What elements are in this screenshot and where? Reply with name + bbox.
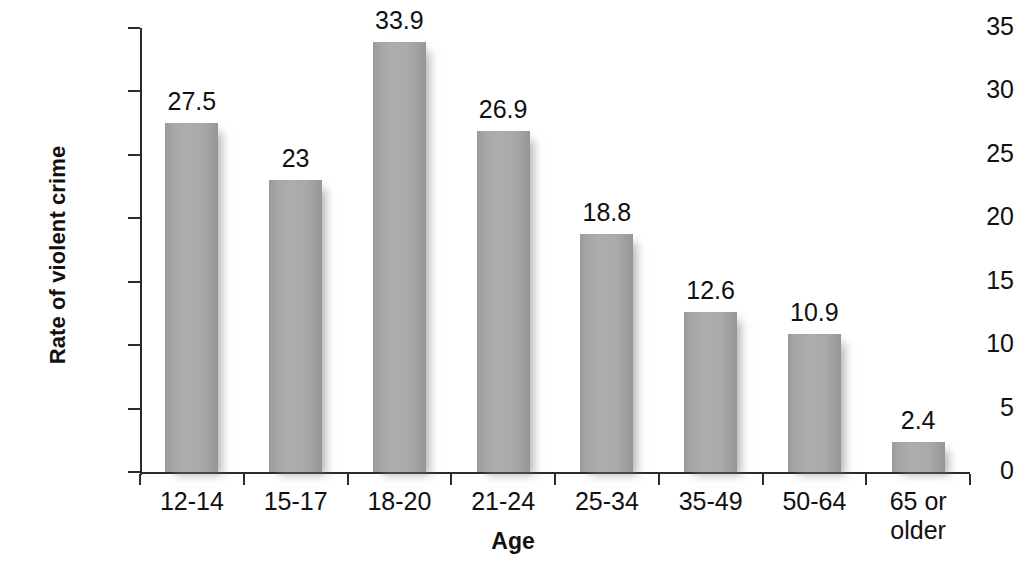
x-axis-category-label: 25-34 [555, 487, 659, 516]
bar [269, 180, 322, 472]
bar-value-label: 23 [244, 144, 348, 173]
x-axis-tick [450, 474, 452, 485]
bar-value-label: 33.9 [348, 6, 452, 35]
bar [165, 123, 218, 472]
y-axis-tick-label: 35 [908, 12, 1026, 41]
y-axis-tick [128, 344, 140, 346]
bar [580, 234, 633, 472]
bar [373, 42, 426, 472]
x-axis-tick [243, 474, 245, 485]
x-axis-tick [139, 474, 141, 485]
x-axis-tick [762, 474, 764, 485]
bar-value-label: 26.9 [451, 95, 555, 124]
y-axis-tick-label: 30 [908, 75, 1026, 104]
y-axis-tick [128, 281, 140, 283]
y-axis-tick-label: 20 [908, 202, 1026, 231]
y-axis-tick-label: 10 [908, 329, 1026, 358]
bar-value-label: 18.8 [555, 198, 659, 227]
x-axis-category-label: 50-64 [763, 487, 867, 516]
bar-value-label: 2.4 [866, 406, 970, 435]
bar-value-label: 27.5 [140, 87, 244, 116]
bar-value-label: 10.9 [763, 298, 867, 327]
y-axis-title: Rate of violent crime [38, 20, 78, 490]
x-axis-tick [969, 474, 971, 485]
y-axis-tick [128, 217, 140, 219]
x-axis-tick [347, 474, 349, 485]
x-axis-category-label: 15-17 [244, 487, 348, 516]
bar [477, 131, 530, 472]
x-axis-category-label: 35-49 [659, 487, 763, 516]
x-axis-tick [554, 474, 556, 485]
y-axis-tick-label: 25 [908, 139, 1026, 168]
y-axis-tick [128, 471, 140, 473]
x-axis-tick [865, 474, 867, 485]
bar-chart: Rate of violent crime 05101520253035 27.… [0, 0, 1026, 584]
bar [788, 334, 841, 472]
x-axis-tick [658, 474, 660, 485]
y-axis-tick-label: 15 [908, 266, 1026, 295]
y-axis-tick [128, 27, 140, 29]
bar [684, 312, 737, 472]
x-axis-category-label: 12-14 [140, 487, 244, 516]
y-axis-tick [128, 154, 140, 156]
y-axis-tick [128, 408, 140, 410]
bar [892, 442, 945, 472]
x-axis-category-label: 21-24 [451, 487, 555, 516]
x-axis-title: Age [0, 528, 1026, 555]
bar-value-label: 12.6 [659, 276, 763, 305]
x-axis-category-label: 18-20 [348, 487, 452, 516]
y-axis-tick [128, 90, 140, 92]
